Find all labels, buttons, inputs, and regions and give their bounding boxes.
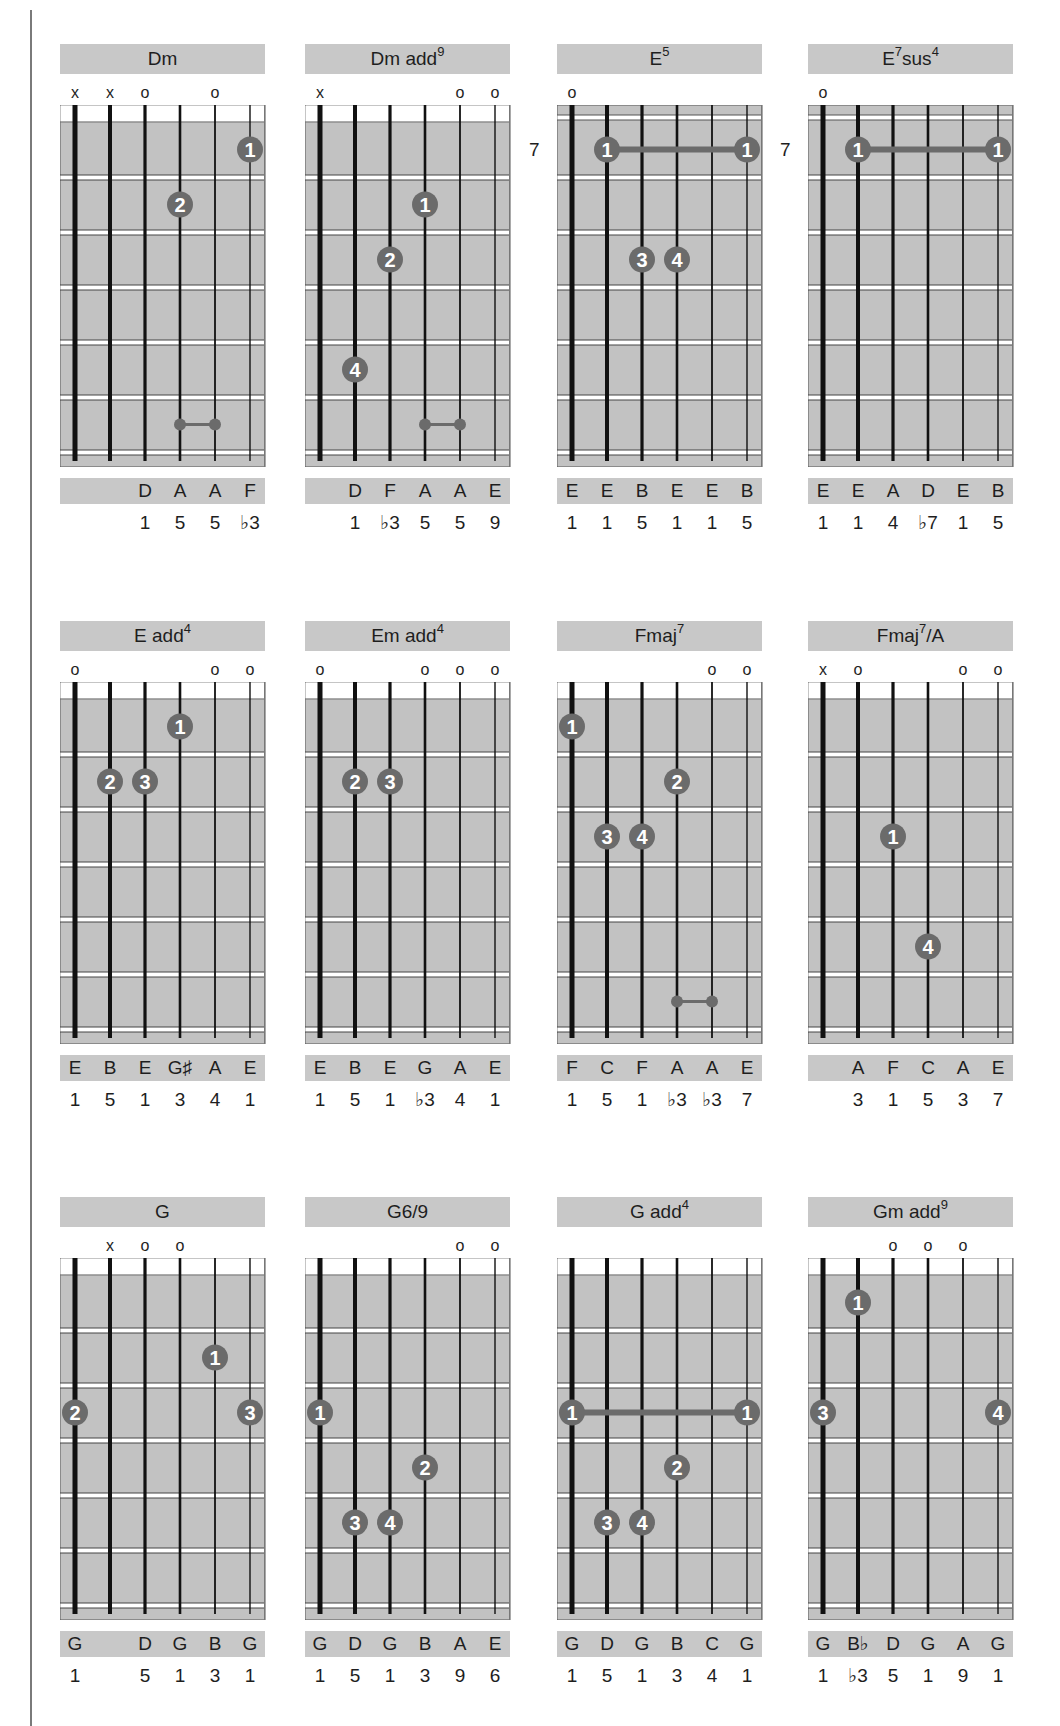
chord-name-text: Dm (148, 48, 178, 69)
interval-degrees-row: 151341 (557, 1664, 762, 1688)
note-name: G (557, 1631, 587, 1657)
interval-degree: 5 (340, 1088, 370, 1112)
note-name: B (340, 1055, 370, 1081)
interval-degree: 1 (697, 511, 727, 535)
note-name: E (557, 478, 587, 504)
note-name: A (948, 1631, 978, 1657)
interval-degree: 4 (878, 511, 908, 535)
chord-superscript: 7 (677, 621, 684, 636)
interval-degree: 3 (410, 1664, 440, 1688)
note-name: G (305, 1631, 335, 1657)
chord-name: E add4 (60, 621, 265, 651)
open-string-marker: o (557, 85, 587, 101)
interval-degrees-row: 115115 (557, 511, 762, 535)
fret-position-number: 7 (529, 139, 540, 161)
chord-superscript: 7 (895, 44, 902, 59)
interval-degree: 3 (165, 1088, 195, 1112)
note-name: G (410, 1055, 440, 1081)
note-name: B (200, 1631, 230, 1657)
interval-degree: 1 (557, 1664, 587, 1688)
interval-degree: 3 (662, 1664, 692, 1688)
string-markers: xxoo (60, 85, 265, 101)
chord-name: Fmaj7/A (808, 621, 1013, 651)
svg-text:3: 3 (349, 1512, 360, 1534)
note-name: G (913, 1631, 943, 1657)
interval-degree: 5 (913, 1088, 943, 1112)
interval-degree: 5 (410, 511, 440, 535)
note-name: D (340, 478, 370, 504)
svg-text:3: 3 (601, 1512, 612, 1534)
note-name: A (662, 1055, 692, 1081)
finger-dot: 2 (377, 247, 403, 273)
page-margin-rule (30, 10, 32, 1726)
open-string-marker: o (983, 662, 1013, 678)
note-name: F (235, 478, 265, 504)
chord-superscript: 4 (682, 1197, 689, 1212)
chord-name: G6/9 (305, 1197, 510, 1227)
open-string-marker: o (445, 662, 475, 678)
note-name: G (808, 1631, 838, 1657)
note-name: E (662, 478, 692, 504)
interval-degree: 1 (843, 511, 873, 535)
note-name: B (662, 1631, 692, 1657)
finger-dot: 2 (167, 192, 193, 218)
interval-degree: 1 (480, 1088, 510, 1112)
svg-text:2: 2 (104, 771, 115, 793)
chord-suffix: sus (902, 48, 932, 69)
note-names-bar: EEADEB (808, 478, 1013, 504)
interval-degree: 3 (948, 1088, 978, 1112)
fret-position-number: 7 (780, 139, 791, 161)
finger-dot: 1 (412, 192, 438, 218)
svg-text:2: 2 (419, 1457, 430, 1479)
chord-name-text: E (650, 48, 663, 69)
open-string-marker: o (445, 85, 475, 101)
note-name: D (913, 478, 943, 504)
svg-text:4: 4 (636, 1512, 648, 1534)
note-names-bar: EBEG♯AE (60, 1055, 265, 1081)
svg-text:4: 4 (922, 936, 934, 958)
chord-name: G add4 (557, 1197, 762, 1227)
note-name: G (165, 1631, 195, 1657)
interval-degrees-row: 1♭35191 (808, 1664, 1013, 1688)
svg-text:2: 2 (174, 194, 185, 216)
finger-dot: 2 (342, 769, 368, 795)
interval-degree: 1 (60, 1664, 90, 1688)
string-markers: ooo (60, 662, 265, 678)
interval-degree: 9 (480, 511, 510, 535)
chord-name: E5 (557, 44, 762, 74)
interval-degree: 1 (732, 1664, 762, 1688)
finger-dot: 2 (664, 1455, 690, 1481)
svg-text:4: 4 (636, 826, 648, 848)
interval-degrees-row: 31537 (808, 1088, 1013, 1112)
string-markers: ooo (808, 1238, 1013, 1254)
note-name: E (375, 1055, 405, 1081)
finger-dot: 4 (342, 357, 368, 383)
note-name: B♭ (843, 1631, 873, 1657)
open-string-marker: o (948, 1238, 978, 1254)
interval-degrees-row: 151396 (305, 1664, 510, 1688)
note-name: A (878, 478, 908, 504)
note-name: A (948, 1055, 978, 1081)
note-names-bar: GB♭DGAG (808, 1631, 1013, 1657)
chord-superscript: 5 (662, 44, 669, 59)
svg-text:1: 1 (852, 1292, 863, 1314)
note-name: G (983, 1631, 1013, 1657)
note-name: B (95, 1055, 125, 1081)
note-name: E (480, 1631, 510, 1657)
open-string-marker: o (200, 662, 230, 678)
interval-degrees-row: 1♭3559 (305, 511, 510, 535)
finger-dot: 3 (132, 769, 158, 795)
string-markers: xoo (60, 1238, 265, 1254)
svg-text:1: 1 (741, 139, 752, 161)
interval-degree: 1 (60, 1088, 90, 1112)
fretboard: 23 (305, 682, 522, 1044)
interval-degree: 5 (95, 1088, 125, 1112)
chord-name-text: Fmaj (635, 625, 677, 646)
finger-dot: 2 (664, 769, 690, 795)
interval-degree: 1 (375, 1664, 405, 1688)
note-name: E (592, 478, 622, 504)
note-name: A (165, 478, 195, 504)
note-name: A (445, 478, 475, 504)
interval-degrees-row: 151341 (60, 1088, 265, 1112)
interval-degree: 5 (627, 511, 657, 535)
